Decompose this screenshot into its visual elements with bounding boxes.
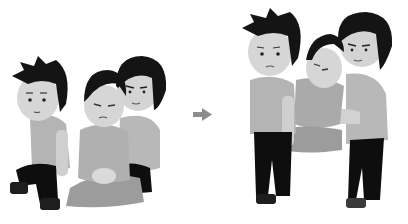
helper-front-standing	[242, 8, 301, 204]
helper-front-kneeling	[10, 56, 70, 210]
rescue-carry-illustration	[0, 0, 408, 224]
panel-before	[10, 56, 166, 210]
panel-after	[242, 8, 392, 208]
right-arrow-icon	[193, 108, 212, 121]
